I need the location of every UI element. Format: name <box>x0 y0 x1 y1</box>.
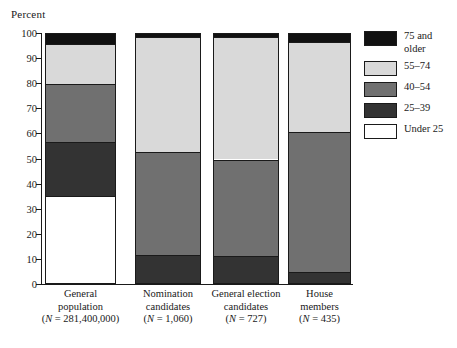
segment-divider <box>46 196 115 197</box>
y-tick-label: 40 <box>27 178 38 189</box>
bar-segment[interactable] <box>46 44 115 84</box>
y-tick-label: 10 <box>27 253 38 264</box>
legend-swatch <box>364 61 397 76</box>
x-axis-line <box>41 284 353 285</box>
y-tick-label: 50 <box>27 153 38 164</box>
category-label-line: (N = 435) <box>250 313 390 326</box>
bar-segment[interactable] <box>46 142 115 196</box>
bar-segment[interactable] <box>46 34 115 44</box>
segment-divider <box>289 132 350 133</box>
legend-label-line: 55–74 <box>404 60 430 73</box>
category-label-line: members <box>250 301 390 314</box>
legend-swatch <box>364 82 397 97</box>
plot-area: 1009080706050403020100 Generalpopulation… <box>41 33 353 284</box>
bar-2[interactable] <box>135 33 201 284</box>
y-tick-label: 100 <box>21 28 37 39</box>
bar-4[interactable] <box>288 33 351 284</box>
bar-segment[interactable] <box>214 160 278 257</box>
legend-label-line: 25–39 <box>404 102 430 115</box>
legend-label-line: 40–54 <box>404 81 430 94</box>
legend-swatch <box>364 103 397 118</box>
y-tick-label: 70 <box>27 103 38 114</box>
legend: 75 andolder55–7440–5425–39Under 25 <box>364 30 456 144</box>
y-tick-label: 60 <box>27 128 38 139</box>
legend-item[interactable]: Under 25 <box>364 123 456 139</box>
segment-divider <box>46 142 115 143</box>
segment-divider <box>289 42 350 43</box>
bar-3[interactable] <box>213 33 279 284</box>
bar-segment[interactable] <box>136 37 200 152</box>
bar-segment[interactable] <box>289 272 350 284</box>
bar-1[interactable] <box>45 33 116 284</box>
legend-label: 75 andolder <box>404 30 432 55</box>
legend-item[interactable]: 55–74 <box>364 60 456 76</box>
y-axis-line <box>41 33 42 284</box>
category-label-line: House <box>250 288 390 301</box>
category-label: Housemembers(N = 435) <box>250 288 390 326</box>
legend-label: 55–74 <box>404 60 430 73</box>
segment-divider <box>46 84 115 85</box>
bar-segment[interactable] <box>214 256 278 284</box>
legend-item[interactable]: 75 andolder <box>364 30 456 55</box>
legend-label: 40–54 <box>404 81 430 94</box>
legend-label: Under 25 <box>404 123 443 136</box>
y-axis-title: Percent <box>11 8 45 20</box>
legend-label-line: Under 25 <box>404 123 443 136</box>
legend-swatch <box>364 124 397 139</box>
segment-divider <box>136 37 200 38</box>
segment-divider <box>214 160 278 161</box>
legend-item[interactable]: 40–54 <box>364 81 456 97</box>
y-tick-label: 90 <box>27 53 38 64</box>
bar-segment[interactable] <box>289 42 350 132</box>
legend-label-line: older <box>404 43 432 56</box>
legend-label-line: 75 and <box>404 30 432 43</box>
chart-root: Percent 1009080706050403020100 Generalpo… <box>0 0 457 348</box>
bar-segment[interactable] <box>46 84 115 142</box>
segment-divider <box>136 152 200 153</box>
bar-segment[interactable] <box>289 34 350 42</box>
segment-divider <box>46 44 115 45</box>
bar-segment[interactable] <box>136 152 200 255</box>
bar-segment[interactable] <box>289 132 350 273</box>
y-tick-label: 80 <box>27 78 38 89</box>
bar-segment[interactable] <box>214 37 278 160</box>
segment-divider <box>214 256 278 257</box>
segment-divider <box>136 255 200 256</box>
legend-item[interactable]: 25–39 <box>364 102 456 118</box>
bar-segment[interactable] <box>136 255 200 284</box>
legend-label: 25–39 <box>404 102 430 115</box>
segment-divider <box>214 37 278 38</box>
segment-divider <box>289 272 350 273</box>
legend-swatch <box>364 31 397 46</box>
y-tick-label: 20 <box>27 228 38 239</box>
bar-segment[interactable] <box>46 196 115 284</box>
y-tick-label: 30 <box>27 203 38 214</box>
